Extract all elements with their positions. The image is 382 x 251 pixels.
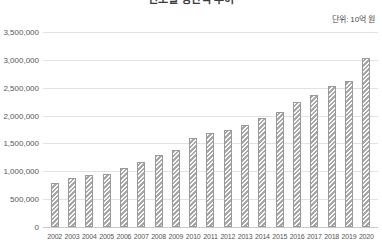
- bar[interactable]: [276, 112, 284, 227]
- x-axis-tick-label: 2012: [219, 233, 236, 240]
- bar[interactable]: [120, 168, 128, 227]
- y-axis-tick-label: 2,500,000: [0, 83, 39, 92]
- bar-slot: [185, 32, 202, 227]
- plot-area: [43, 32, 378, 227]
- x-axis-tick-label: 2011: [202, 233, 219, 240]
- x-axis-tick-label: 2020: [358, 233, 375, 240]
- x-axis-tick-label: 2018: [323, 233, 340, 240]
- bar[interactable]: [362, 58, 370, 227]
- x-axis-tick-label: 2014: [254, 233, 271, 240]
- bar[interactable]: [345, 81, 353, 227]
- bar[interactable]: [51, 183, 59, 227]
- bar[interactable]: [155, 155, 163, 227]
- bar-slot: [271, 32, 288, 227]
- bar[interactable]: [310, 95, 318, 227]
- bar-slot: [81, 32, 98, 227]
- x-axis-tick-label: 2006: [115, 233, 132, 240]
- y-axis-tick-label: 500,000: [0, 195, 39, 204]
- plot-wrapper: 2002200320042005200620072008200920102011…: [0, 0, 382, 251]
- bar-slot: [254, 32, 271, 227]
- bar-slot: [288, 32, 305, 227]
- x-axis-labels: 2002200320042005200620072008200920102011…: [43, 233, 378, 240]
- bar-slot: [167, 32, 184, 227]
- x-axis-tick-label: 2016: [288, 233, 305, 240]
- bar-slot: [236, 32, 253, 227]
- bar-slot: [133, 32, 150, 227]
- x-axis-tick-label: 2019: [340, 233, 357, 240]
- bar[interactable]: [206, 133, 214, 227]
- bar[interactable]: [189, 138, 197, 227]
- x-axis-tick-label: 2004: [81, 233, 98, 240]
- gridline: [43, 227, 378, 228]
- bar-slot: [46, 32, 63, 227]
- y-axis-tick-label: 3,000,000: [0, 55, 39, 64]
- bar-slot: [63, 32, 80, 227]
- y-axis-tick-label: 1,000,000: [0, 167, 39, 176]
- bar-slot: [202, 32, 219, 227]
- bar[interactable]: [103, 174, 111, 227]
- x-axis-tick-label: 2008: [150, 233, 167, 240]
- y-axis-tick-label: 3,500,000: [0, 28, 39, 37]
- bar-slot: [219, 32, 236, 227]
- y-axis-tick-label: 2,000,000: [0, 111, 39, 120]
- bar[interactable]: [68, 178, 76, 227]
- x-axis-tick-label: 2007: [133, 233, 150, 240]
- x-axis-tick-label: 2013: [236, 233, 253, 240]
- bar-slot: [323, 32, 340, 227]
- bar-slot: [306, 32, 323, 227]
- bar[interactable]: [85, 175, 93, 227]
- bar-series: [43, 32, 378, 227]
- y-axis-tick-label: 1,500,000: [0, 139, 39, 148]
- x-axis-tick-label: 2010: [185, 233, 202, 240]
- x-axis-tick-label: 2017: [306, 233, 323, 240]
- bar-slot: [340, 32, 357, 227]
- x-axis-tick-label: 2005: [98, 233, 115, 240]
- bar[interactable]: [137, 162, 145, 227]
- bar[interactable]: [241, 125, 249, 227]
- bar-chart: 연도별 생산액 추이 단위: 10억 원 2002200320042005200…: [0, 0, 382, 251]
- bar-slot: [98, 32, 115, 227]
- bar-slot: [358, 32, 375, 227]
- bar[interactable]: [172, 150, 180, 227]
- x-axis-tick-label: 2002: [46, 233, 63, 240]
- bar-slot: [115, 32, 132, 227]
- x-axis-tick-label: 2003: [63, 233, 80, 240]
- y-axis-tick-label: 0: [0, 223, 39, 232]
- bar-slot: [150, 32, 167, 227]
- x-axis-tick-label: 2015: [271, 233, 288, 240]
- bar[interactable]: [258, 118, 266, 227]
- bar[interactable]: [293, 102, 301, 227]
- bar[interactable]: [328, 86, 336, 227]
- x-axis-tick-label: 2009: [167, 233, 184, 240]
- bar[interactable]: [224, 130, 232, 227]
